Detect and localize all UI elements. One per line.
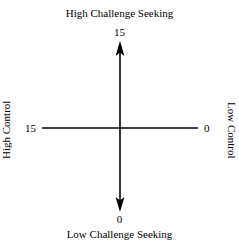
quadrant-axes-diagram: High Challenge Seeking 15 0 Low Challeng… [0,0,239,245]
vertical-axis-top-tick-value: 15 [0,26,239,38]
horizontal-axis-left-label: High Control [0,94,14,166]
vertical-axis-top-label: High Challenge Seeking [0,7,239,20]
horizontal-axis-left-tick-value: 15 [25,122,36,134]
vertical-axis-bottom-label: Low Challenge Seeking [0,228,239,241]
horizontal-axis-right-tick-value: 0 [204,122,210,134]
horizontal-axis-right-label: Low Control [224,94,238,166]
vertical-axis-bottom-tick-value: 0 [0,213,239,225]
